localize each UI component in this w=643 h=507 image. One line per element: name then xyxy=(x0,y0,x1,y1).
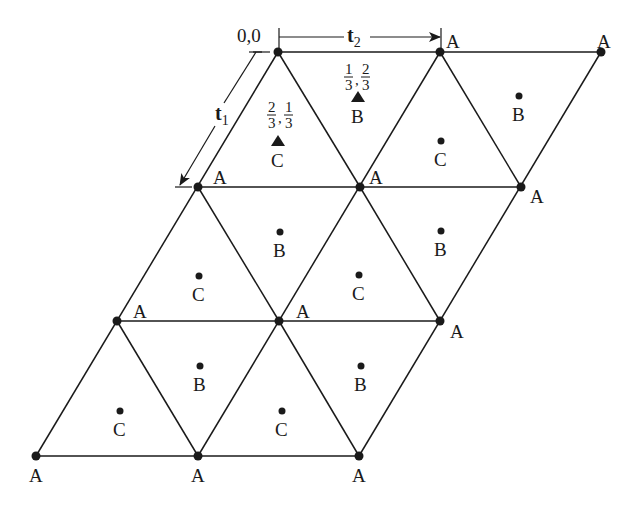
b-label: B xyxy=(351,106,364,127)
t1-shaft-bottom xyxy=(180,126,215,185)
c-label: C xyxy=(271,150,284,171)
b-label: B xyxy=(512,104,525,125)
a-label: A xyxy=(530,186,544,207)
a-label: A xyxy=(369,167,383,188)
a-label: A xyxy=(597,31,611,52)
diag-right-2 xyxy=(198,187,279,321)
a-label: A xyxy=(29,465,43,486)
lattice-diagram: A A A A A A A A A A A B B B B B C C C C … xyxy=(0,0,643,507)
a-label: A xyxy=(446,31,460,52)
b-site-dot xyxy=(438,228,445,235)
frac-den: 3 xyxy=(268,115,276,131)
c-site-dot xyxy=(438,138,445,145)
frac-num: 1 xyxy=(345,61,353,77)
diag-left-2 xyxy=(359,52,601,456)
c-label: C xyxy=(113,419,126,440)
b-site-dot xyxy=(358,363,365,370)
fraction-1-3-2-3: 1 3 , 2 3 xyxy=(344,61,370,93)
a-site-dot xyxy=(194,452,203,461)
b-label: B xyxy=(354,374,367,395)
c-site-dot xyxy=(356,272,363,279)
t2-vector: t2 xyxy=(279,24,441,50)
a-site-dot xyxy=(356,183,365,192)
t2-label: t2 xyxy=(347,24,361,50)
b-site-dot xyxy=(277,229,284,236)
t1-label: t1 xyxy=(215,102,229,128)
a-label: A xyxy=(213,167,227,188)
a-site-dot xyxy=(436,317,445,326)
a-site-dot xyxy=(355,452,364,461)
diag-right-4 xyxy=(117,321,198,456)
a-site-dot xyxy=(274,48,283,57)
origin-label: 0,0 xyxy=(237,25,261,46)
frac-den: 3 xyxy=(362,77,370,93)
c-site-dot xyxy=(196,273,203,280)
c-label: C xyxy=(352,283,365,304)
frac-comma: , xyxy=(278,110,282,126)
frac-den: 3 xyxy=(285,115,293,131)
c-site-fractional: 2 3 , 1 3 C xyxy=(267,99,293,171)
diag-left-1 xyxy=(198,52,440,456)
a-site-dot xyxy=(194,183,203,192)
fraction-2-3-1-3: 2 3 , 1 3 xyxy=(267,99,293,131)
a-site-dot xyxy=(275,317,284,326)
frac-num: 2 xyxy=(268,99,276,115)
diag-right-5 xyxy=(279,321,359,456)
a-label: A xyxy=(133,301,147,322)
b-site-fractional: 1 3 , 2 3 B xyxy=(344,61,370,127)
a-site-labels: A A A A A A A A A A A xyxy=(29,31,611,486)
b-sites: B B B B B xyxy=(193,93,525,396)
c-label: C xyxy=(275,419,288,440)
c-label: C xyxy=(192,284,205,305)
c-label: C xyxy=(434,149,447,170)
frac-comma: , xyxy=(355,72,359,88)
a-site-dot xyxy=(32,452,41,461)
frac-den: 3 xyxy=(345,77,353,93)
b-label: B xyxy=(273,240,286,261)
a-label: A xyxy=(191,465,205,486)
a-label: A xyxy=(450,321,464,342)
a-site-dot xyxy=(436,48,445,57)
a-label: A xyxy=(296,301,310,322)
b-label: B xyxy=(193,374,206,395)
a-site-dot xyxy=(113,317,122,326)
triangle-marker-icon xyxy=(271,135,285,146)
diag-left-0 xyxy=(36,52,278,456)
diag-right-3 xyxy=(360,187,440,321)
a-site-dot xyxy=(517,183,526,192)
b-site-dot xyxy=(516,93,523,100)
c-site-dot xyxy=(117,408,124,415)
c-site-dot xyxy=(279,408,286,415)
frac-num: 2 xyxy=(362,61,370,77)
frac-num: 1 xyxy=(285,99,293,115)
diag-right-1 xyxy=(440,52,521,187)
b-label: B xyxy=(434,239,447,260)
b-site-dot xyxy=(197,363,204,370)
a-label: A xyxy=(352,465,366,486)
